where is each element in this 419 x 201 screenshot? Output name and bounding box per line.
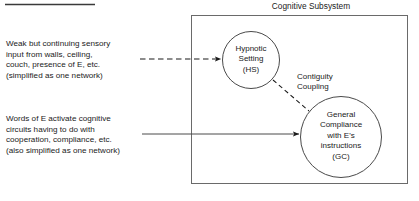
words-of-e-note: Words of E activate cognitive circuits h… — [6, 114, 142, 156]
contiguity-coupling-label: Contiguity Coupling — [297, 72, 347, 93]
node-hypnotic-setting-label: Hypnotic Setting (HS) — [222, 44, 280, 75]
node-general-compliance-label: General Compliance with E's instructions… — [305, 110, 377, 162]
diagram-vector-layer — [0, 0, 419, 201]
diagram-canvas: Cognitive Subsystem Weak but continuing … — [0, 0, 419, 201]
sensory-input-note: Weak but continuing sensory input from w… — [6, 39, 140, 81]
subsystem-title: Cognitive Subsystem — [252, 1, 370, 12]
